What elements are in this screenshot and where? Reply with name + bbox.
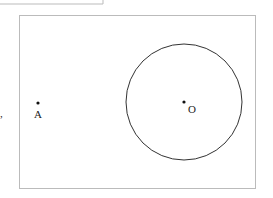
point-o — [182, 100, 185, 103]
figure-frame — [20, 16, 256, 189]
previous-box-edge — [0, 0, 103, 4]
comma-mark: , — [0, 107, 3, 119]
label-o: O — [188, 103, 196, 115]
label-a: A — [34, 108, 42, 120]
point-a — [36, 101, 39, 104]
diagram-canvas: A O , — [0, 0, 273, 198]
